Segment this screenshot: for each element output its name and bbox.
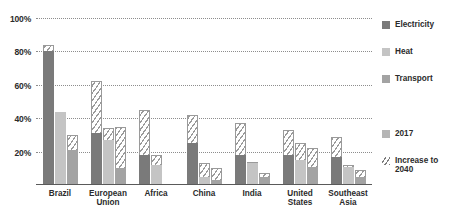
bar (283, 130, 294, 185)
bar (43, 45, 54, 185)
bar (139, 110, 150, 185)
bar-segment-increase-to-2040 (307, 148, 318, 166)
legend-swatch-transport (382, 75, 390, 83)
bar-chart: 100% 80% 60% 40% 20% BrazilEuropean Unio… (0, 0, 458, 220)
y-axis-tick-label-40: 40% (15, 114, 31, 124)
bar (355, 170, 366, 185)
bar-segment-increase-to-2040 (115, 127, 126, 169)
bar-segment-2017 (55, 112, 66, 185)
bar-segment-increase-to-2040 (199, 163, 210, 176)
bar-segment-2017 (67, 150, 78, 185)
x-axis-category-label: European Union (89, 189, 127, 207)
legend-label-transport: Transport (395, 74, 433, 83)
bar-segment-increase-to-2040 (283, 130, 294, 155)
x-axis-category-label: India (242, 189, 261, 198)
bar-segment-2017 (103, 140, 114, 185)
bar-segment-increase-to-2040 (355, 170, 366, 177)
bar-segment-increase-to-2040 (91, 81, 102, 133)
bar (343, 165, 354, 185)
bar-segment-2017 (43, 51, 54, 185)
bar (331, 137, 342, 185)
x-axis-category-label: United States (287, 189, 312, 207)
bar (55, 112, 66, 185)
y-axis-tick-label-100: 100% (10, 14, 31, 24)
bar (67, 135, 78, 185)
x-axis-line (36, 184, 372, 185)
bar-segment-2017 (331, 157, 342, 185)
bar (307, 148, 318, 185)
bar-segment-2017 (295, 160, 306, 185)
x-axis-category-label: Africa (144, 189, 167, 198)
bar-group: Africa (132, 18, 180, 185)
legend-swatch-2017 (382, 130, 390, 138)
bar-group: Southeast Asia (324, 18, 372, 185)
bar (115, 127, 126, 185)
bar-segment-increase-to-2040 (331, 137, 342, 157)
bar-segment-increase-to-2040 (139, 110, 150, 155)
bar-segment-2017 (343, 167, 354, 185)
legend-swatch-heat (382, 48, 390, 56)
bar-group: European Union (84, 18, 132, 185)
bar-segment-2017 (91, 133, 102, 185)
legend-item-2017: 2017 (382, 129, 413, 138)
bar (211, 168, 222, 185)
bar-segment-2017 (139, 155, 150, 185)
legend-item-heat: Heat (382, 47, 413, 56)
bar-segment-2017 (187, 143, 198, 185)
bar-segment-2017 (307, 167, 318, 185)
legend-item-electricity: Electricity (382, 20, 434, 29)
bar-group: China (180, 18, 228, 185)
bar-group: United States (276, 18, 324, 185)
legend-label-heat: Heat (395, 47, 413, 56)
bar (199, 163, 210, 185)
bar-group: Brazil (36, 18, 84, 185)
bar-segment-increase-to-2040 (67, 135, 78, 150)
legend-swatch-electricity (382, 21, 390, 29)
legend-swatch-increase-to-2040 (382, 157, 390, 165)
legend-item-increase-to-2040: Increase to 2040 (382, 156, 438, 175)
bar (103, 128, 114, 185)
y-axis-tick-label-20: 20% (15, 148, 31, 158)
legend-item-transport: Transport (382, 74, 433, 83)
bar-segment-increase-to-2040 (235, 123, 246, 155)
legend-label-increase-to-2040: Increase to 2040 (395, 156, 438, 175)
bar-segment-increase-to-2040 (43, 45, 54, 52)
bar-segment-2017 (151, 165, 162, 185)
x-axis-category-label: China (193, 189, 216, 198)
bar-groups: BrazilEuropean UnionAfricaChinaIndiaUnit… (36, 18, 372, 185)
bar-segment-2017 (283, 155, 294, 185)
bar-segment-increase-to-2040 (295, 143, 306, 160)
y-axis-tick-label-60: 60% (15, 81, 31, 91)
bar-group: India (228, 18, 276, 185)
bar-segment-2017 (247, 163, 258, 185)
bar-segment-increase-to-2040 (151, 155, 162, 165)
bar (91, 81, 102, 185)
bar-segment-increase-to-2040 (187, 115, 198, 143)
y-axis-tick-label-80: 80% (15, 47, 31, 57)
bar (247, 162, 258, 185)
x-axis-category-label: Brazil (49, 189, 71, 198)
bar-segment-2017 (115, 168, 126, 185)
bar (295, 143, 306, 185)
bar-segment-2017 (235, 155, 246, 185)
plot-area: 100% 80% 60% 40% 20% BrazilEuropean Unio… (36, 18, 372, 185)
legend-label-electricity: Electricity (395, 20, 434, 29)
bar (235, 123, 246, 185)
bar-segment-increase-to-2040 (211, 168, 222, 180)
bar (187, 115, 198, 185)
bar-segment-increase-to-2040 (103, 128, 114, 140)
legend-label-2017: 2017 (395, 129, 413, 138)
bar (151, 155, 162, 185)
x-axis-category-label: Southeast Asia (328, 189, 368, 207)
